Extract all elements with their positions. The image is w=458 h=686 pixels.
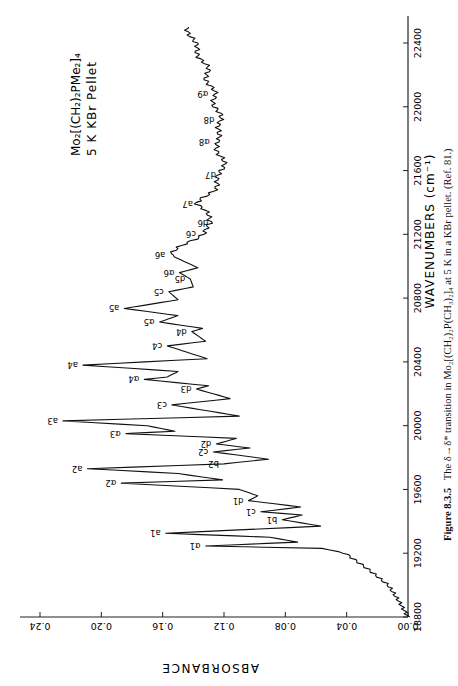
- x-tick-label: 21600: [412, 155, 423, 185]
- peak-label: b1: [266, 515, 277, 525]
- peak-label: c4: [152, 341, 162, 351]
- y-tick-label: 0.24: [29, 621, 50, 632]
- compound-label: Mo₂[(CH₂)₂PMe₂]₄: [69, 53, 83, 156]
- peak-label: c5: [154, 287, 164, 297]
- peak-label: α6: [164, 268, 175, 278]
- peak-label: α1: [190, 541, 201, 551]
- rotated-figure: 1880019200196002000020400208002120021600…: [0, 0, 458, 686]
- peak-label: d1: [233, 496, 244, 506]
- y-tick-label: 0.04: [336, 621, 357, 632]
- peak-label: d8: [204, 115, 215, 125]
- peak-label: c6: [186, 229, 196, 239]
- y-tick-label: 0.12: [213, 621, 234, 632]
- peak-label: b2: [208, 459, 219, 469]
- peak-label: d5: [174, 274, 185, 284]
- peak-label: a5: [109, 303, 120, 313]
- peak-label: a6: [155, 250, 166, 260]
- x-tick-label: 22000: [412, 92, 423, 122]
- peak-label: a1: [150, 528, 161, 538]
- figure-caption: Figure 8.3.5 The δ→δ* transition in Mo₂[…: [442, 148, 453, 541]
- spectrum-trace: [63, 27, 410, 617]
- y-tick-label: 0.00: [397, 621, 418, 632]
- x-tick-label: 19200: [412, 538, 423, 568]
- peak-label: α5: [144, 317, 155, 327]
- x-tick-label: 22400: [412, 28, 423, 58]
- peak-label: a2: [72, 464, 83, 474]
- peak-label: α8: [199, 137, 210, 147]
- figure-number: Figure 8.3.5: [442, 488, 453, 541]
- peak-label: d2: [201, 439, 212, 449]
- x-tick-label: 20400: [412, 347, 423, 377]
- spectrum-chart: 1880019200196002000020400208002120021600…: [0, 0, 458, 686]
- peak-label: d4: [176, 327, 187, 337]
- peak-label: c3: [157, 400, 167, 410]
- x-tick-label: 20800: [412, 283, 423, 313]
- x-tick-label: 21200: [412, 219, 423, 249]
- x-tick-label: 19600: [412, 474, 423, 504]
- peak-label: d3: [181, 384, 192, 394]
- figure: 1880019200196002000020400208002120021600…: [0, 0, 458, 686]
- peak-label: α4: [128, 374, 139, 384]
- peak-label: a7: [182, 199, 193, 209]
- caption-text: The δ→δ* transition in Mo₂[(CH₂)₂P(CH₃)₂…: [442, 148, 453, 480]
- absorbance-line: [63, 27, 410, 617]
- x-tick-label: 20000: [412, 411, 423, 441]
- peak-label: a3: [47, 416, 58, 426]
- y-tick-label: 0.08: [275, 621, 296, 632]
- peak-label: d6: [197, 218, 208, 228]
- peak-label: α2: [105, 478, 116, 488]
- peak-label: c1: [246, 507, 256, 517]
- peak-label: α3: [110, 429, 121, 439]
- y-tick-label: 0.20: [91, 621, 112, 632]
- peak-label: a4: [67, 360, 78, 370]
- conditions-label: 5 K KBr Pellet: [85, 61, 99, 156]
- peak-label: d7: [205, 170, 216, 180]
- peak-label: α9: [197, 89, 208, 99]
- y-tick-label: 0.16: [152, 621, 173, 632]
- x-axis-label: WAVENUMBERS (cm⁻¹): [423, 154, 437, 309]
- y-axis-label: ABSORBANCE: [161, 661, 259, 675]
